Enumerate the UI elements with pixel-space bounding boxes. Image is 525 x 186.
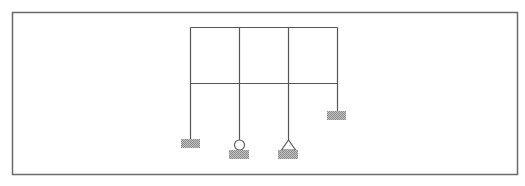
ground-hatch — [327, 111, 346, 120]
ground-hatch — [181, 139, 200, 148]
diagram-border — [13, 13, 518, 175]
ground-hatch — [278, 150, 298, 159]
frame-diagram — [0, 0, 525, 186]
support-4-fixed-support-icon — [327, 111, 346, 120]
frame-members — [191, 28, 338, 141]
supports — [181, 111, 346, 159]
border-frame — [13, 13, 518, 175]
roller-circle-icon — [235, 140, 245, 150]
support-1-fixed-support-icon — [181, 139, 200, 148]
support-3-pin-support-icon — [278, 140, 298, 159]
ground-hatch — [229, 150, 249, 159]
support-2-roller-support-icon — [229, 140, 249, 159]
pin-triangle-icon — [282, 140, 296, 150]
